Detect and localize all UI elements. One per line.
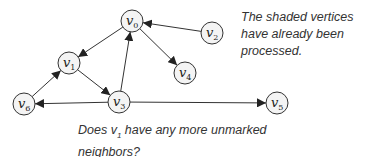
edge-v1-to-v3 <box>78 70 111 95</box>
vertex-v3: v3 <box>108 91 130 113</box>
edge-v3-to-v6 <box>35 102 108 104</box>
edge-v2-to-v0 <box>143 23 201 32</box>
edge-v0-to-v4 <box>140 29 177 66</box>
question-prefix: Does v <box>78 123 117 137</box>
edge-v3-to-v5 <box>130 102 266 103</box>
vertex-v2: v2 <box>201 22 223 44</box>
edge-v3-to-v0 <box>121 32 131 91</box>
edge-v6-to-v1 <box>32 70 61 96</box>
edge-v0-to-v1 <box>78 27 123 57</box>
vertex-v6: v6 <box>13 93 35 115</box>
vertex-v4: v4 <box>174 62 196 84</box>
unmarked-neighbors-question: Does v1 have any more unmarked neighbors… <box>78 122 278 157</box>
vertex-v0: v0 <box>121 10 143 32</box>
processed-vertices-note: The shaded vertices have already been pr… <box>241 9 371 60</box>
vertex-v5: v5 <box>266 92 288 114</box>
vertex-v1: v1 <box>58 52 80 74</box>
